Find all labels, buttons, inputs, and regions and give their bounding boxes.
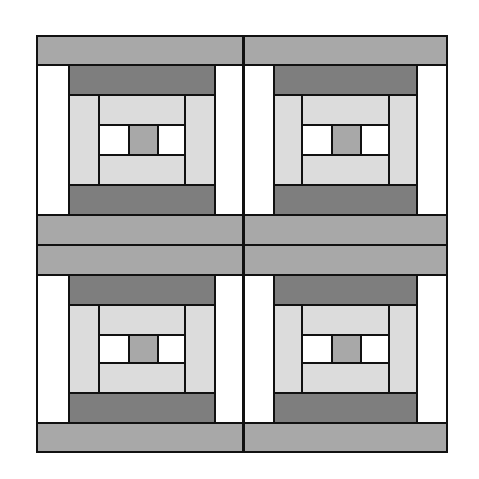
bottom-band — [243, 422, 448, 453]
top-dark-bar — [273, 64, 418, 96]
inner-bottom-light — [98, 362, 186, 394]
left-white-strip — [36, 274, 70, 424]
bottom-dark-bar — [68, 392, 216, 424]
center-square — [128, 334, 159, 364]
center-left-white — [98, 124, 130, 156]
left-white-strip — [243, 274, 275, 424]
right-white-strip — [416, 274, 448, 424]
left-white-strip — [36, 64, 70, 216]
quilt-block-bottom-left — [36, 244, 241, 453]
inner-top-light — [98, 304, 186, 336]
inner-top-light — [98, 94, 186, 126]
bottom-dark-bar — [68, 184, 216, 216]
top-dark-bar — [273, 274, 418, 306]
quilt-block-top-right — [243, 35, 448, 244]
right-white-strip — [214, 64, 244, 216]
left-light-strip — [273, 304, 303, 394]
right-white-strip — [214, 274, 244, 424]
inner-top-light — [301, 94, 390, 126]
center-right-white — [157, 124, 186, 156]
center-left-white — [98, 334, 130, 364]
quilt-diagram — [36, 35, 446, 453]
center-right-white — [360, 334, 390, 364]
bottom-band — [36, 422, 244, 453]
bottom-dark-bar — [273, 392, 418, 424]
left-light-strip — [68, 94, 100, 186]
top-band — [36, 35, 244, 66]
bottom-dark-bar — [273, 184, 418, 216]
right-white-strip — [416, 64, 448, 216]
quilt-block-top-left — [36, 35, 241, 244]
center-square — [331, 334, 362, 364]
center-square — [128, 124, 159, 156]
center-right-white — [360, 124, 390, 156]
top-band — [243, 35, 448, 66]
bottom-band — [243, 214, 448, 246]
inner-top-light — [301, 304, 390, 336]
inner-bottom-light — [301, 362, 390, 394]
top-dark-bar — [68, 274, 216, 306]
quilt-block-bottom-right — [243, 244, 448, 453]
center-right-white — [157, 334, 186, 364]
right-light-strip — [388, 94, 418, 186]
top-dark-bar — [68, 64, 216, 96]
left-white-strip — [243, 64, 275, 216]
center-left-white — [301, 334, 333, 364]
top-band — [36, 244, 244, 276]
left-light-strip — [68, 304, 100, 394]
inner-bottom-light — [301, 154, 390, 186]
right-light-strip — [388, 304, 418, 394]
bottom-band — [36, 214, 244, 246]
right-light-strip — [184, 304, 216, 394]
left-light-strip — [273, 94, 303, 186]
top-band — [243, 244, 448, 276]
center-square — [331, 124, 362, 156]
inner-bottom-light — [98, 154, 186, 186]
center-left-white — [301, 124, 333, 156]
right-light-strip — [184, 94, 216, 186]
